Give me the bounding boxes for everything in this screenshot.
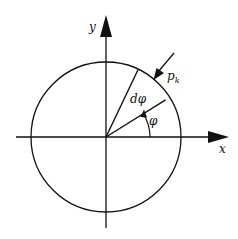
d-phi-label: dφ [130,92,147,106]
circle-diagram: y x dφ φ pk [0,0,238,239]
pressure-subscript: k [175,76,180,85]
x-axis-label: x [219,142,226,156]
diagram-canvas: y x dφ φ pk [0,0,238,239]
pressure-label: pk [167,69,180,85]
y-axis-label: y [88,20,96,34]
y-axis-arrow-icon [100,15,112,37]
phi-arc-arrow-icon [141,110,148,118]
phi-label: φ [149,114,158,128]
pressure-arrow-icon [154,68,165,80]
